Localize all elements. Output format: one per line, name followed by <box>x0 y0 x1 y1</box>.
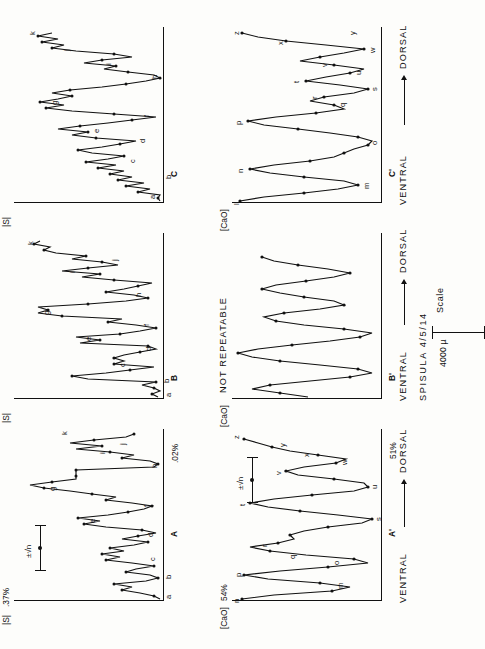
panel-Bprime-note: NOT REPEATABLE <box>218 297 228 393</box>
panel-B-id: B <box>169 375 179 381</box>
point-label-d: d <box>146 533 155 537</box>
panel-Cprime: l m n o p q r s t u v w x y z [CaO] C' V… <box>232 25 412 225</box>
panel-Aprime-ymax-label: 54% <box>219 584 229 601</box>
point-label-c: c <box>148 557 157 561</box>
point-label-q: q <box>338 103 347 107</box>
point-label-e: e <box>84 337 93 341</box>
point-label-g: g <box>48 487 57 491</box>
point-label-n: n <box>232 599 241 603</box>
point-label-a: a <box>164 393 173 397</box>
panel-C-yaxis-label: |S| <box>1 217 11 227</box>
point-label-w: w <box>368 48 377 53</box>
point-label-x: x <box>302 453 311 457</box>
panel-Cprime-id: C' <box>387 169 397 177</box>
point-label-c: c <box>128 159 137 163</box>
point-label-p: p <box>234 573 243 577</box>
point-label-e: e <box>88 519 97 523</box>
panel-Aprime-ventral-label: VENTRAL <box>398 553 408 603</box>
panel-B-trace <box>14 231 182 421</box>
right-arrow-icon <box>401 279 407 284</box>
point-label-z: z <box>232 435 241 439</box>
point-label-f: f <box>142 115 151 117</box>
panel-Cprime-dorsal-label: DORSAL <box>398 25 408 69</box>
point-label-l: l <box>232 203 241 205</box>
error-bar-text-A: ±√n <box>24 545 33 558</box>
panel-A-yaxis-label: |S| <box>1 615 11 625</box>
specimen-label: SPISULA 4/5/14 <box>418 312 428 401</box>
point-label-p: p <box>234 121 243 125</box>
point-label-i: i <box>98 452 107 454</box>
point-label-s: s <box>374 517 383 521</box>
error-bar-text-Aprime: ±√n <box>236 477 245 490</box>
point-label-u: u <box>370 485 379 489</box>
right-arrow-icon <box>401 75 407 80</box>
point-label-v: v <box>274 471 283 475</box>
point-label-d: d <box>138 139 147 143</box>
point-label-n: n <box>236 169 245 173</box>
panel-Aprime-dorsal-label: DORSAL <box>398 429 408 473</box>
point-label-z: z <box>232 31 241 35</box>
scale-label: Scale <box>435 287 445 313</box>
scale-value: 4000 µ <box>438 339 448 367</box>
panel-Bprime-id: B' <box>387 373 397 381</box>
panel-Cprime-yaxis-label: [CaO] <box>219 209 229 231</box>
point-label-a: a <box>164 595 173 599</box>
point-label-k: k <box>60 431 69 435</box>
point-label-f: f <box>142 324 151 326</box>
point-label-i: i <box>104 63 113 65</box>
point-label-q: q <box>288 555 297 559</box>
panel-C-id: C <box>169 171 179 177</box>
panel-C: a b c d e f g h i j k |S| C <box>14 25 182 225</box>
panel-Cprime-ventral-label: VENTRAL <box>398 155 408 205</box>
panel-Bprime-yaxis-label: [CaO] <box>219 405 229 427</box>
point-label-a: a <box>148 195 157 199</box>
point-label-y: y <box>348 31 357 35</box>
point-label-t: t <box>292 81 301 83</box>
point-label-o: o <box>370 141 379 145</box>
panel-Aprime-yaxis-label: [CaO] <box>219 607 229 629</box>
point-label-i: i <box>68 271 77 273</box>
direction-arrow-line-Cprime <box>404 79 405 125</box>
point-label-o: o <box>332 561 341 565</box>
panel-Bprime-dorsal-label: DORSAL <box>398 229 408 273</box>
point-label-u: u <box>354 71 363 75</box>
panel-Aprime: m n o p q r s t u v w x y z [CaO] 54% 51… <box>232 427 412 623</box>
panel-Bprime-trace <box>232 231 412 421</box>
panel-B: a b c d e f g h i j k |S| B <box>14 231 182 421</box>
point-label-t: t <box>238 504 247 506</box>
point-label-r: r <box>260 544 269 547</box>
point-label-m: m <box>362 183 371 189</box>
point-label-h: h <box>150 75 159 79</box>
point-label-g: g <box>50 101 59 105</box>
point-label-w: w <box>340 460 349 465</box>
point-label-d: d <box>144 347 153 351</box>
point-label-f: f <box>142 505 151 507</box>
point-label-m: m <box>336 583 345 589</box>
point-label-k: k <box>26 241 35 245</box>
point-label-h: h <box>134 293 143 297</box>
point-label-v: v <box>320 63 329 67</box>
point-label-y: y <box>278 443 287 447</box>
panel-Aprime-id: A' <box>387 529 397 537</box>
point-label-j: j <box>110 259 119 261</box>
point-label-h: h <box>150 464 159 468</box>
point-label-j: j <box>118 443 127 445</box>
panel-A: a b c d e f g h i j k |S| .37% .02% A ±√… <box>14 427 182 623</box>
panel-Bprime: [CaO] NOT REPEATABLE B' VENTRAL DORSAL S… <box>232 231 412 421</box>
direction-arrow-line-Bprime <box>404 283 405 325</box>
point-label-s: s <box>370 87 379 91</box>
point-label-x: x <box>276 41 285 45</box>
panel-A-ymin-label: .02% <box>170 444 180 463</box>
panel-Aprime-trace <box>232 427 412 623</box>
point-label-r: r <box>310 96 319 99</box>
point-label-k: k <box>28 31 37 35</box>
panel-A-ymax-label: .37% <box>1 588 11 607</box>
point-label-b: b <box>164 575 173 579</box>
panel-Bprime-ventral-label: VENTRAL <box>398 351 408 401</box>
point-label-c: c <box>118 363 127 367</box>
panel-Cprime-trace <box>232 25 412 225</box>
panel-A-id: A <box>169 531 179 537</box>
direction-arrow-line-Aprime <box>404 483 405 527</box>
